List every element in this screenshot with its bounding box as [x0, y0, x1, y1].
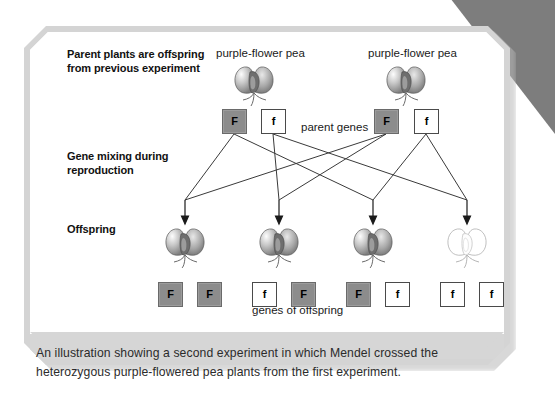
parent-right-caption: purple-flower pea	[368, 47, 457, 59]
offspring-4-allele-box-2[interactable]: f	[479, 282, 504, 307]
row-label-mixing-line2: reproduction	[67, 164, 134, 176]
offspring-3-allele-box-1[interactable]: F	[346, 282, 371, 307]
parent-right-purple-flower-icon	[382, 62, 430, 106]
cross-diagram: Parent plants are offspring from previou…	[30, 32, 504, 334]
offspring-2-purple-flower-icon	[255, 224, 303, 268]
row-label-parents: Parent plants are offspring from previou…	[67, 48, 217, 75]
offspring-1-allele-box-1[interactable]: F	[158, 282, 183, 307]
parent-right-allele-box-1[interactable]: F	[374, 109, 399, 134]
row-label-mixing-line1: Gene mixing during	[67, 150, 169, 162]
offspring-3-purple-flower-icon	[349, 224, 397, 268]
parent-left-allele-box-1[interactable]: F	[222, 109, 247, 134]
parent-left-allele-box-2[interactable]: f	[261, 109, 286, 134]
figure-caption-line1: An illustration showing a second experim…	[36, 344, 496, 363]
figure-stage: Parent plants are offspring from previou…	[0, 0, 557, 414]
offspring-1-allele-box-2[interactable]: F	[197, 282, 222, 307]
row-label-parents-line2: from previous experiment	[67, 62, 200, 74]
offspring-3-allele-box-2[interactable]: f	[385, 282, 410, 307]
figure-caption-line2: heterozygous purple-flowered pea plants …	[36, 363, 496, 382]
row-label-gene-mixing: Gene mixing during reproduction	[67, 150, 217, 177]
parent-right-allele-box-2[interactable]: f	[414, 109, 439, 134]
offspring-2-allele-box-1[interactable]: f	[252, 282, 277, 307]
figure-caption: An illustration showing a second experim…	[36, 344, 496, 382]
offspring-4-white-flower-icon	[443, 224, 491, 268]
offspring-1-purple-flower-icon	[161, 224, 209, 268]
row-label-parents-line1: Parent plants are offspring	[67, 48, 204, 60]
offspring-4-allele-box-1[interactable]: f	[440, 282, 465, 307]
parent-left-caption: purple-flower pea	[216, 47, 305, 59]
parent-genes-label: parent genes	[301, 121, 368, 133]
offspring-2-allele-box-2[interactable]: F	[291, 282, 316, 307]
parent-left-purple-flower-icon	[230, 62, 278, 106]
